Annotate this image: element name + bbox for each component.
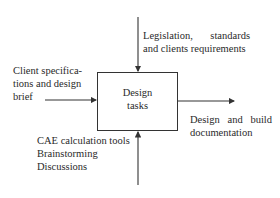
outputs-line1c: build [250,113,272,126]
controls-line1a: Legislation, [143,29,193,42]
inputs-line3: brief [13,90,82,103]
outputs-line1b: and [227,113,242,126]
inputs-line2: tions and design [13,77,82,90]
controls-line2: and clients requirements [143,42,250,55]
inputs-line1: Client specifica- [13,64,82,77]
box-label-line2: tasks [97,99,178,112]
mechanisms-line1: CAE calculation tools [37,134,130,147]
outputs-text: Design and build documentation [190,113,272,139]
controls-line1b: standards [210,29,250,42]
mechanisms-text: CAE calculation tools Brainstorming Disc… [37,134,130,173]
box-label-line1: Design [97,86,178,99]
outputs-line1a: Design [190,113,220,126]
mechanisms-line3: Discussions [37,160,130,173]
controls-text: Legislation, standards and clients requi… [143,29,250,55]
design-tasks-label: Design tasks [97,86,178,112]
inputs-text: Client specifica- tions and design brief [13,64,82,103]
outputs-line2: documentation [190,126,272,139]
mechanisms-line2: Brainstorming [37,147,130,160]
